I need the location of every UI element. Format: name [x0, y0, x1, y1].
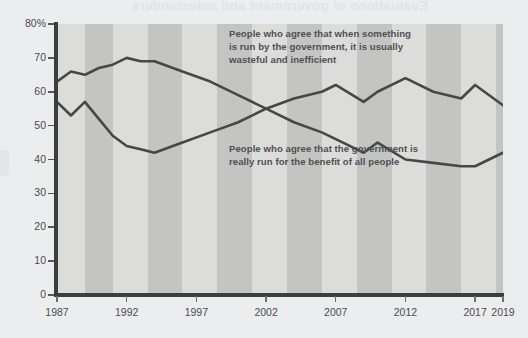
x-axis-label-1992: 1992: [115, 306, 138, 318]
x-tick-1997: [196, 296, 197, 302]
annotation-benefit-all-people: People who agree that the government is …: [229, 143, 419, 169]
x-axis-label-2017: 2017: [463, 306, 486, 318]
y-axis-label-0: 0: [10, 289, 46, 300]
x-axis-label-2019: 2019: [491, 306, 514, 318]
x-tick-2017: [474, 296, 475, 302]
x-axis-label-2007: 2007: [324, 306, 347, 318]
y-axis-label-60: 60: [10, 86, 46, 97]
page-canvas: Evaluations of government and sidestande…: [0, 0, 528, 338]
x-axis-line: [54, 293, 504, 297]
x-tick-2002: [265, 296, 266, 302]
y-axis-label-70: 70: [10, 52, 46, 63]
y-tick-10: [48, 260, 54, 262]
y-tick-30: [48, 193, 54, 195]
y-axis-label-80: 80%: [10, 18, 46, 29]
x-axis-label-2012: 2012: [394, 306, 417, 318]
y-axis-label-20: 20: [10, 221, 46, 232]
line-chart: 01020304050607080% 198719921997200220072…: [0, 0, 528, 338]
y-tick-60: [48, 91, 54, 93]
x-axis-label-2002: 2002: [254, 306, 277, 318]
x-tick-2012: [405, 296, 406, 302]
y-tick-70: [48, 57, 54, 59]
x-tick-2007: [335, 296, 336, 302]
y-axis-label-50: 50: [10, 120, 46, 131]
annotation-wasteful-inefficient: People who agree that when something is …: [229, 28, 419, 67]
x-axis-label-1997: 1997: [185, 306, 208, 318]
y-tick-80: [48, 23, 54, 25]
y-tick-0: [48, 294, 54, 296]
y-axis-line: [54, 22, 58, 297]
y-axis-label-40: 40: [10, 154, 46, 165]
x-tick-2019: [502, 296, 503, 302]
y-axis-label-10: 10: [10, 255, 46, 266]
x-axis-label-1987: 1987: [45, 306, 68, 318]
y-tick-20: [48, 226, 54, 228]
y-tick-40: [48, 159, 54, 161]
y-tick-50: [48, 125, 54, 127]
x-tick-1992: [126, 296, 127, 302]
y-axis-label-30: 30: [10, 187, 46, 198]
x-tick-1987: [56, 296, 57, 302]
